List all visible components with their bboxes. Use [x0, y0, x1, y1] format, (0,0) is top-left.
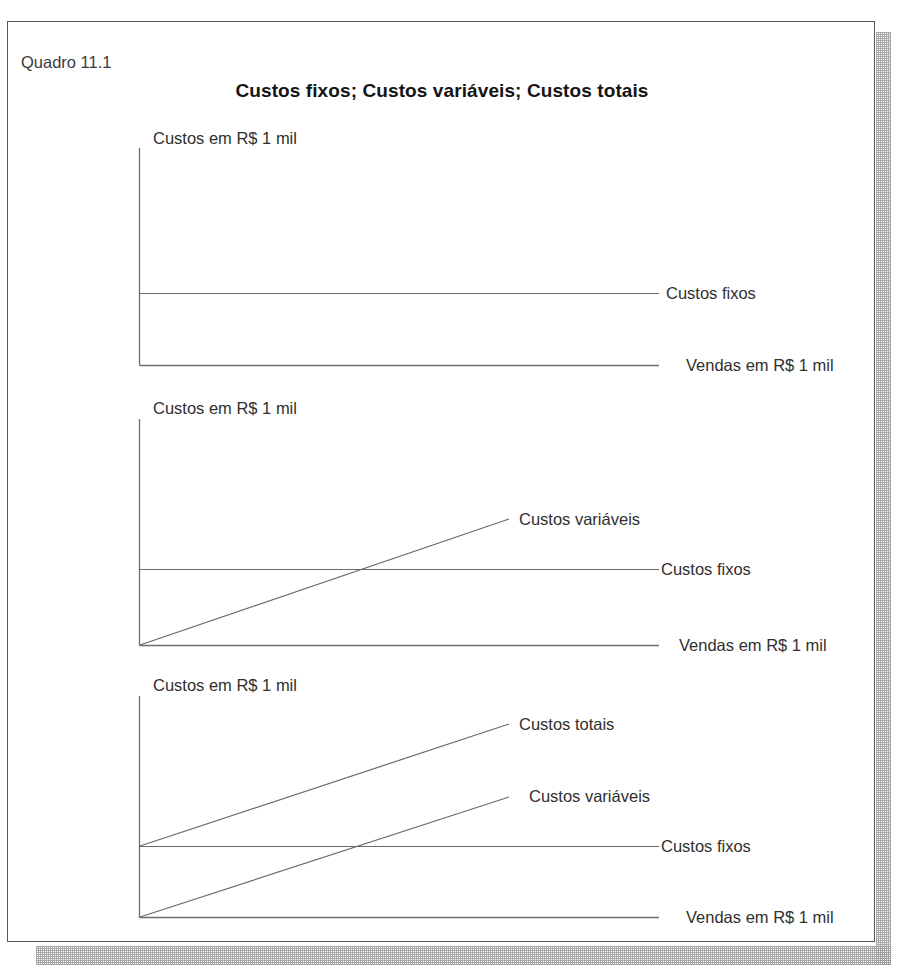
chart-3-label-custos-variaveis: Custos variáveis [529, 787, 650, 805]
chart-3-line-custos-variaveis [140, 797, 509, 917]
figure-title: Custos fixos; Custos variáveis; Custos t… [8, 80, 876, 102]
chart-2-label-custos-fixos: Custos fixos [661, 560, 751, 578]
chart-1-label-custos-fixos: Custos fixos [666, 284, 756, 302]
figure-frame: Quadro 11.1 Custos fixos; Custos variáve… [7, 21, 875, 942]
chart-1-svg: Custos em R$ 1 mil Custos fixos Vendas e… [8, 120, 876, 382]
chart-3-x-axis-label: Vendas em R$ 1 mil [686, 908, 834, 926]
chart-2-svg: Custos em R$ 1 mil Custos variáveis Cust… [8, 398, 876, 660]
chart-1-x-axis-label: Vendas em R$ 1 mil [686, 356, 834, 374]
chart-3-line-custos-totais [140, 724, 509, 846]
chart-3-svg: Custos em R$ 1 mil Custos totais Custos … [8, 674, 876, 949]
chart-1-y-axis-label: Custos em R$ 1 mil [153, 129, 297, 147]
chart-3-label-custos-totais: Custos totais [519, 715, 614, 733]
page-canvas: Quadro 11.1 Custos fixos; Custos variáve… [0, 0, 897, 971]
chart-2-label-custos-variaveis: Custos variáveis [519, 510, 640, 528]
chart-2-x-axis-label: Vendas em R$ 1 mil [679, 636, 827, 654]
chart-3-y-axis-label: Custos em R$ 1 mil [153, 676, 297, 694]
chart-3-label-custos-fixos: Custos fixos [661, 837, 751, 855]
figure-caption: Quadro 11.1 [21, 53, 112, 72]
chart-2-line-custos-variaveis [140, 519, 509, 645]
chart-2-y-axis-label: Custos em R$ 1 mil [153, 399, 297, 417]
chart-panel-2: Custos em R$ 1 mil Custos variáveis Cust… [8, 398, 876, 660]
chart-panel-1: Custos em R$ 1 mil Custos fixos Vendas e… [8, 120, 876, 382]
chart-panel-3: Custos em R$ 1 mil Custos totais Custos … [8, 674, 876, 949]
page-drop-shadow-right [876, 32, 891, 965]
